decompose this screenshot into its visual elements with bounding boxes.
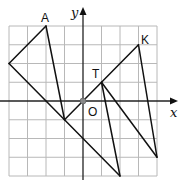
origin-dot bbox=[80, 98, 86, 104]
point-label-t: T bbox=[92, 67, 100, 81]
point-label-k: K bbox=[141, 33, 149, 47]
segment-ap bbox=[46, 26, 65, 120]
x-axis-arrow-icon bbox=[170, 98, 178, 105]
y-axis-arrow-icon bbox=[80, 7, 87, 15]
coordinate-diagram: x y O A T K bbox=[0, 0, 182, 180]
segment-tr bbox=[102, 82, 121, 176]
origin-label: O bbox=[88, 105, 97, 119]
x-axis-label: x bbox=[170, 105, 178, 120]
y-axis-label: y bbox=[70, 5, 79, 20]
point-label-a: A bbox=[41, 11, 49, 25]
